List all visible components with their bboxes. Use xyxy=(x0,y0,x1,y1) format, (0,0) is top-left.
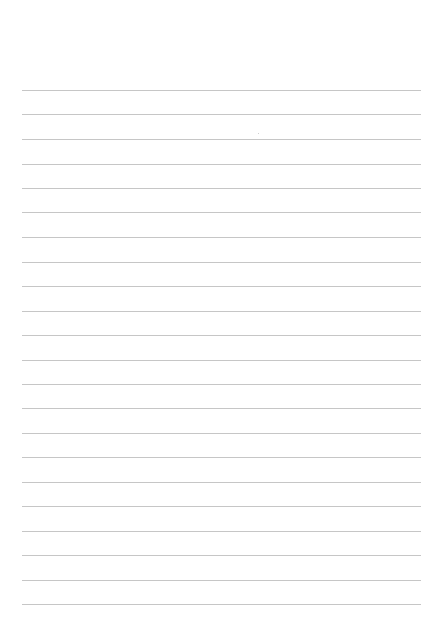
ruled-line xyxy=(22,482,421,483)
scan-speck xyxy=(258,133,259,134)
ruled-line xyxy=(22,384,421,385)
ruled-line xyxy=(22,114,421,115)
ruled-line xyxy=(22,90,421,91)
lined-paper-page xyxy=(0,0,441,635)
ruled-line xyxy=(22,531,421,532)
ruled-line xyxy=(22,408,421,409)
ruled-line xyxy=(22,580,421,581)
ruled-line xyxy=(22,433,421,434)
ruled-line xyxy=(22,212,421,213)
ruled-line xyxy=(22,335,421,336)
ruled-line xyxy=(22,262,421,263)
ruled-line xyxy=(22,139,421,140)
ruled-line xyxy=(22,555,421,556)
ruled-line xyxy=(22,188,421,189)
ruled-line xyxy=(22,164,421,165)
ruled-line xyxy=(22,311,421,312)
ruled-line xyxy=(22,237,421,238)
ruled-line xyxy=(22,286,421,287)
ruled-line xyxy=(22,457,421,458)
ruled-line xyxy=(22,360,421,361)
ruled-line xyxy=(22,506,421,507)
ruled-line xyxy=(22,604,421,605)
